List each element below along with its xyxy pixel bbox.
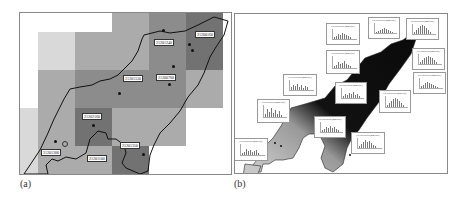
station-dot xyxy=(168,83,171,86)
station-dot xyxy=(162,29,165,32)
panel-a-caption: (a) xyxy=(20,178,31,189)
panel-a-grid-map: 21200160 21201240 21201550 21200780 2120… xyxy=(19,12,232,175)
station-label: 21201550 xyxy=(123,75,143,82)
mini-chart: Precipitation (mm/day) xyxy=(257,99,290,123)
mini-chart: Precipitation (mm/day) xyxy=(314,116,346,138)
station-ring xyxy=(62,141,68,147)
mini-chart: Precipitation (mm/day) xyxy=(351,132,385,154)
station-dot xyxy=(142,153,145,156)
station-label: 21201300 xyxy=(41,149,61,156)
station-label: 21201350 xyxy=(120,142,140,149)
station-dot xyxy=(54,140,57,143)
mini-chart: Precipitation (mm/day) xyxy=(412,48,445,70)
mini-chart: Precipitation (mm/day) xyxy=(368,17,400,39)
mini-chart: Precipitation (mm/day) xyxy=(413,72,446,94)
station-dot xyxy=(118,92,121,95)
mini-chart: Precipitation (mm/day) xyxy=(234,138,268,161)
panel-b-caption: (b) xyxy=(234,178,246,189)
station-dot xyxy=(172,65,175,68)
mini-chart: Precipitation (mm/day) xyxy=(283,74,317,96)
station-dot xyxy=(191,49,194,52)
station-dot xyxy=(349,154,351,156)
station-dot xyxy=(92,124,95,127)
panel-b-terrain-map: Precipitation (mm/day) Precipitation (mm… xyxy=(234,13,448,174)
station-label: 21200780 xyxy=(156,74,176,81)
mini-chart: Precipitation (mm/day) xyxy=(406,18,439,40)
station-dot xyxy=(280,145,282,147)
station-label: 21201240 xyxy=(154,39,174,46)
mini-chart: Precipitation (mm/day) xyxy=(326,50,360,74)
station-label: 21201100 xyxy=(87,155,107,162)
station-dot xyxy=(274,142,276,144)
station-dot xyxy=(188,43,191,46)
station-label: 21200160 xyxy=(195,31,215,38)
mini-chart: Precipitation (mm/day) xyxy=(379,90,411,113)
station-label: 21202160 xyxy=(82,113,102,120)
mini-chart: Precipitation (mm/day) xyxy=(326,23,360,45)
mini-chart: Precipitation (mm/day) xyxy=(335,82,367,104)
